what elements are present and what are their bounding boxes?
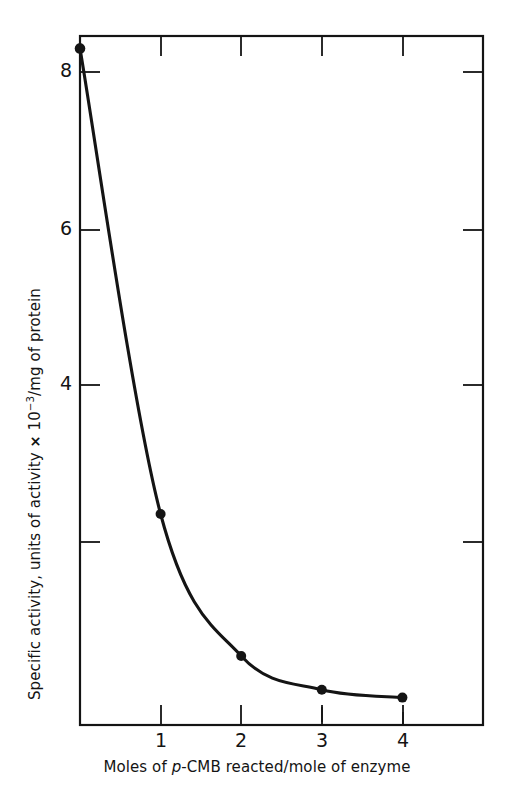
figure-container: 1 2 3 4 8 6 4 Moles of p-CMB reacted/mol… — [0, 0, 514, 809]
x-axis-label: Moles of p-CMB reacted/mole of enzyme — [0, 758, 514, 776]
axes-frame — [80, 36, 483, 725]
y-axis-ticks-right — [463, 72, 483, 542]
y-axis-label-before: Specific activity, units of activity — [26, 447, 44, 700]
y-axis-label: Specific activity, units of activity × 1… — [26, 288, 44, 700]
data-point-stems — [322, 707, 403, 726]
data-point-2 — [236, 651, 246, 661]
x-axis-label-italic-p: p — [172, 758, 182, 776]
data-point-3 — [317, 685, 327, 695]
x-axis-label-after: -CMB reacted/mole of enzyme — [181, 758, 410, 776]
x-axis-ticks-top — [161, 36, 403, 56]
data-point-0 — [75, 43, 86, 54]
y-tick-label-8: 8 — [42, 59, 72, 81]
x-axis-label-before: Moles of — [103, 758, 171, 776]
multiplication-sign-icon: × — [27, 435, 43, 447]
x-axis-ticks-bottom — [161, 705, 403, 725]
x-tick-label-2: 2 — [226, 729, 256, 751]
data-point-1 — [156, 509, 166, 519]
x-tick-label-1: 1 — [146, 729, 176, 751]
y-tick-label-6: 6 — [42, 217, 72, 239]
data-series-line — [80, 48, 402, 697]
x-tick-label-3: 3 — [307, 729, 337, 751]
chart-plot-area — [0, 0, 514, 809]
y-axis-label-after: /mg of protein — [26, 288, 44, 396]
y-tick-label-4: 4 — [42, 372, 72, 394]
data-point-markers — [75, 43, 408, 703]
y-axis-ticks-left — [80, 72, 100, 542]
x-tick-label-4: 4 — [388, 729, 418, 751]
data-point-4 — [397, 693, 407, 703]
y-axis-label-mantissa: 10 — [26, 411, 44, 435]
y-axis-label-exponent: −3 — [25, 396, 36, 411]
y-axis-label-container: Specific activity, units of activity × 1… — [0, 0, 34, 760]
